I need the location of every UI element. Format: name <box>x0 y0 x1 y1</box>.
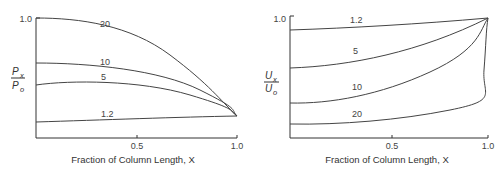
right-label-20: 20 <box>352 109 362 119</box>
left-curve-10 <box>36 63 237 116</box>
left-label-5: 5 <box>101 72 106 82</box>
left-ylabel-num: P <box>12 66 19 77</box>
left-curve-5 <box>36 82 237 116</box>
figure: 1.0 0.5 1.0 Fraction of Column Length, X… <box>0 0 497 177</box>
right-xtick-label-0.5: 0.5 <box>386 141 399 151</box>
right-label-5: 5 <box>353 46 358 56</box>
left-ytick-label-1: 1.0 <box>19 14 32 24</box>
right-ylabel-den: U <box>265 83 273 94</box>
right-xlabel: Fraction of Column Length, X <box>325 154 449 165</box>
right-ylabel: U x U o <box>264 70 279 97</box>
right-curve-20 <box>290 18 488 124</box>
left-label-20: 20 <box>100 19 110 29</box>
right-ylabel-num: U <box>265 70 273 81</box>
right-curve-10 <box>290 18 488 103</box>
chart-pressure: 1.0 0.5 1.0 Fraction of Column Length, X… <box>11 14 243 165</box>
right-xtick-label-1.0: 1.0 <box>482 141 495 151</box>
right-ylabel-den-sub: o <box>273 88 277 97</box>
right-ytick-label-1: 1.0 <box>273 14 286 24</box>
left-label-1.2: 1.2 <box>101 109 114 119</box>
right-label-1.2: 1.2 <box>350 15 363 25</box>
right-curve-1.2 <box>290 18 488 30</box>
left-ylabel-den: P <box>12 80 19 91</box>
left-label-10: 10 <box>100 57 110 67</box>
left-xlabel: Fraction of Column Length, X <box>71 154 195 165</box>
left-ylabel-num-sub: x <box>19 71 24 80</box>
left-curve-1.2 <box>36 116 237 122</box>
left-curve-20 <box>36 18 237 116</box>
left-xtick-label-0.5: 0.5 <box>131 141 144 151</box>
chart-velocity: 1.0 0.5 1.0 Fraction of Column Length, X… <box>264 14 494 165</box>
left-xtick-label-1.0: 1.0 <box>231 141 244 151</box>
right-label-10: 10 <box>352 82 362 92</box>
left-ylabel: P x P o <box>11 66 25 94</box>
left-ylabel-den-sub: o <box>20 85 24 94</box>
right-ylabel-num-sub: x <box>272 75 277 84</box>
